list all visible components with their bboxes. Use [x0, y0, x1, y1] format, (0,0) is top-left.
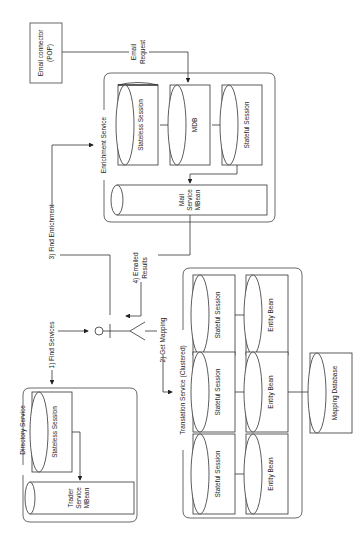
architecture-diagram: Email connector (POP) Email Request Enri…: [0, 0, 362, 557]
svg-text:MBean: MBean: [194, 189, 201, 210]
translation-entity-bean-1: Entity Bean: [244, 275, 288, 355]
mapping-database-node: Mapping Database: [308, 353, 352, 433]
translation-entity-bean-2: Entity Bean: [244, 352, 288, 432]
mail-service-mbean: Mail Service MBean: [111, 185, 267, 215]
get-mapping-edge: 2) Get Mapping: [145, 317, 172, 392]
svg-text:1) Find Services: 1) Find Services: [48, 321, 56, 369]
svg-text:Enrichment Service: Enrichment Service: [100, 116, 107, 173]
svg-text:4) Emailed: 4) Emailed: [132, 252, 140, 283]
enrichment-service-container: Enrichment Service Stateless Session MDB…: [100, 73, 275, 222]
svg-text:(POP): (POP): [46, 44, 54, 62]
enrichment-mdb: MDB: [168, 85, 210, 165]
svg-text:2) Get Mapping: 2) Get Mapping: [159, 317, 167, 362]
directory-service-container: Directory Service Stateless Session Trad…: [19, 388, 137, 522]
directory-stateless-session: Stateless Session: [30, 392, 72, 472]
find-services-edge: 1) Find Services: [48, 321, 88, 384]
svg-text:Directory Service: Directory Service: [19, 405, 27, 455]
actor-icon: [95, 322, 145, 340]
enrichment-stateless-session: Stateless Session: [116, 83, 158, 166]
svg-text:Stateless Session: Stateless Session: [51, 406, 58, 458]
emailed-results-edge: 4) Emailed Results: [126, 215, 190, 316]
svg-text:Trader: Trader: [67, 488, 74, 508]
svg-text:Service: Service: [186, 189, 193, 211]
trader-service-mbean: Trader Service MBean: [25, 482, 134, 514]
translation-stateful-session-1: Stateful Session: [191, 275, 235, 355]
svg-text:Stateful Session: Stateful Session: [214, 368, 221, 415]
svg-text:Email connector: Email connector: [37, 29, 44, 76]
enrichment-stateful-session: Stateful Session: [220, 85, 262, 165]
svg-text:MDB: MDB: [191, 118, 198, 132]
svg-text:3) Find Enrichment: 3) Find Enrichment: [48, 204, 56, 259]
svg-text:Mapping Database: Mapping Database: [331, 365, 339, 420]
translation-service-container: Translation Service (Clustered) Stateful…: [179, 268, 302, 518]
svg-text:Mail: Mail: [178, 193, 185, 205]
translation-entity-bean-3: Entity Bean: [244, 434, 288, 514]
translation-stateful-session-2: Stateful Session: [191, 352, 235, 432]
svg-text:Email: Email: [130, 43, 137, 60]
svg-text:MBean: MBean: [83, 487, 90, 508]
svg-text:Results: Results: [141, 256, 148, 278]
email-request-edge: Email Request: [62, 40, 188, 82]
svg-text:Entity Bean: Entity Bean: [267, 457, 275, 491]
svg-text:Service: Service: [75, 487, 82, 509]
svg-text:Stateful Session: Stateful Session: [214, 450, 221, 497]
translation-stateful-session-3: Stateful Session: [191, 434, 235, 514]
svg-text:Entity Bean: Entity Bean: [267, 375, 275, 409]
svg-text:Translation Service (Clustered: Translation Service (Clustered): [179, 345, 187, 434]
svg-text:Entity Bean: Entity Bean: [267, 298, 275, 332]
svg-text:Stateful Session: Stateful Session: [214, 291, 221, 338]
svg-text:Request: Request: [139, 40, 147, 64]
svg-text:Stateful Session: Stateful Session: [243, 101, 250, 148]
email-connector-node: Email connector (POP): [30, 23, 62, 83]
svg-text:Stateless Session: Stateless Session: [137, 99, 144, 151]
